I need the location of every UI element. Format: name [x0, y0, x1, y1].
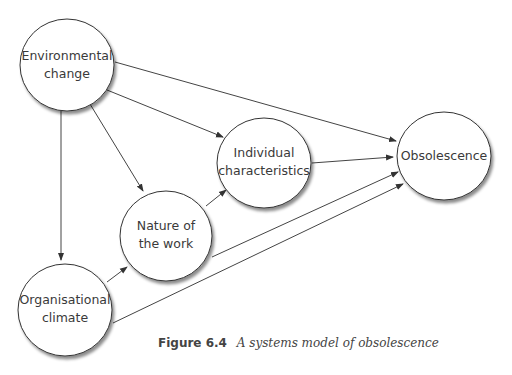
edge-environmental-to-individual: [107, 90, 223, 137]
node-obsolescence: Obsolescence: [397, 112, 491, 200]
figure-title: A systems model of obsolescence: [237, 336, 439, 350]
node-organisational-climate: Organisationalclimate: [18, 264, 112, 356]
figure-caption: Figure 6.4 A systems model of obsolescen…: [158, 336, 439, 350]
node-nature-of-the-work: Nature ofthe work: [120, 191, 212, 281]
svg-text:Obsolescence: Obsolescence: [401, 148, 488, 163]
edge-organisational-to-nature: [107, 267, 127, 282]
node-individual-characteristics: Individualcharacteristics: [217, 118, 311, 208]
edge-environmental-to-nature: [90, 104, 143, 191]
node-environmental-change: Environmentalchange: [20, 19, 114, 111]
systems-model-diagram: Environmentalchange Individualcharacteri…: [0, 0, 512, 375]
figure-label: Figure 6.4: [158, 336, 227, 350]
edge-nature-to-individual: [206, 190, 226, 206]
edge-individual-to-obsolescence: [312, 157, 393, 163]
